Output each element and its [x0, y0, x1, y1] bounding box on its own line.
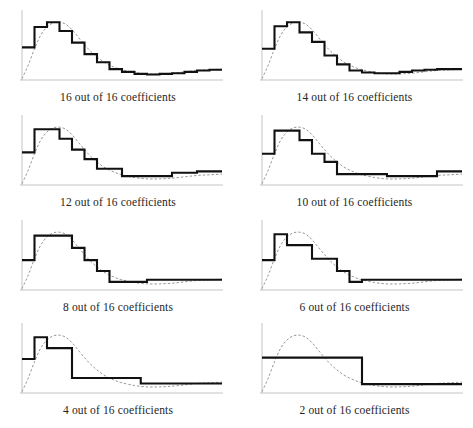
wavelet-reconstruction-figure: 16 out of 16 coefficients 14 out of 16 c… — [0, 0, 473, 428]
reconstruction-plot — [12, 321, 224, 399]
panel-caption: 12 out of 16 coefficients — [60, 195, 176, 209]
panel-caption: 4 out of 16 coefficients — [63, 403, 173, 417]
plot-area — [12, 218, 224, 296]
panel-caption: 2 out of 16 coefficients — [299, 403, 409, 417]
panel-6-of-16: 6 out of 16 coefficients — [236, 213, 473, 313]
panel-2-of-16: 2 out of 16 coefficients — [236, 313, 473, 428]
plot-area — [12, 8, 224, 86]
plot-area — [252, 113, 464, 191]
reconstruction-plot — [252, 8, 464, 86]
panel-12-of-16: 12 out of 16 coefficients — [0, 108, 236, 213]
panel-grid: 16 out of 16 coefficients 14 out of 16 c… — [0, 0, 473, 428]
panel-8-of-16: 8 out of 16 coefficients — [0, 213, 236, 313]
panel-16-of-16: 16 out of 16 coefficients — [0, 0, 236, 108]
panel-caption: 6 out of 16 coefficients — [299, 300, 409, 314]
plot-area — [12, 321, 224, 399]
plot-area — [252, 218, 464, 296]
reconstruction-plot — [252, 218, 464, 296]
reconstruction-plot — [12, 218, 224, 296]
panel-10-of-16: 10 out of 16 coefficients — [236, 108, 473, 213]
panel-caption: 10 out of 16 coefficients — [297, 195, 413, 209]
panel-caption: 8 out of 16 coefficients — [63, 300, 173, 314]
plot-area — [252, 8, 464, 86]
reconstruction-plot — [12, 8, 224, 86]
reconstruction-plot — [252, 321, 464, 399]
panel-caption: 14 out of 16 coefficients — [297, 90, 413, 104]
plot-area — [252, 321, 464, 399]
plot-area — [12, 113, 224, 191]
reconstruction-plot — [12, 113, 224, 191]
panel-4-of-16: 4 out of 16 coefficients — [0, 313, 236, 428]
reconstruction-plot — [252, 113, 464, 191]
panel-caption: 16 out of 16 coefficients — [60, 90, 176, 104]
panel-14-of-16: 14 out of 16 coefficients — [236, 0, 473, 108]
